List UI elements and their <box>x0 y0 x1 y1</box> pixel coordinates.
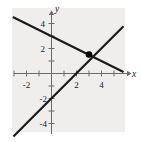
x-tick-label-4: 4 <box>99 80 104 90</box>
y-tick-label-4: 4 <box>41 19 46 29</box>
y-tick-label-neg2: -2 <box>40 94 48 104</box>
y-tick-label-2: 2 <box>41 44 46 54</box>
y-axis-label: y <box>54 4 60 14</box>
y-tick-label-neg4: -4 <box>40 119 48 129</box>
coordinate-plot: -2 2 4 4 2 -2 -4 y x <box>0 0 141 142</box>
intersection-point <box>86 51 93 58</box>
x-axis-label: x <box>131 69 137 79</box>
x-tick-label-neg2: -2 <box>23 80 31 90</box>
x-tick-label-2: 2 <box>74 80 79 90</box>
graph-figure: -2 2 4 4 2 -2 -4 y x <box>0 0 141 142</box>
plot-background <box>12 8 125 132</box>
